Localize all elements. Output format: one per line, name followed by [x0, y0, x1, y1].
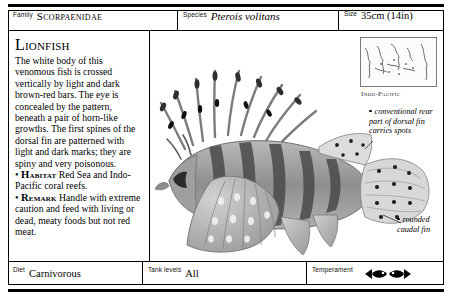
- habitat-line: • Habitat Red Sea and Indo-Pacific coral…: [15, 169, 144, 192]
- description-text: The white body of this venomous fish is …: [15, 55, 144, 169]
- family-label: Family: [13, 11, 33, 18]
- diet-cell: Diet Carnivorous: [8, 262, 143, 285]
- callout-caudal-text: rounded caudal fin: [397, 215, 430, 234]
- illustration-area: Indo-Pacific conventional rear part of d…: [151, 31, 443, 261]
- tank-levels-cell: Tank levels All: [143, 262, 307, 285]
- fish-mouth: [155, 182, 169, 189]
- dorsal-spines: [159, 71, 316, 149]
- family-cell: Family Scorpaenidae: [8, 10, 178, 30]
- page-title: Lionfish: [15, 37, 144, 53]
- body-area: Lionfish The white body of this venomous…: [9, 31, 443, 261]
- callout-dorsal-text: conventional rear part of dorsal fin car…: [369, 107, 433, 135]
- distribution-map: [360, 37, 437, 87]
- remark-keyword: Remark: [21, 192, 57, 203]
- lower-fins: [281, 215, 338, 255]
- temperament-label: Temperament: [312, 266, 353, 273]
- caudal-fin: [361, 159, 430, 224]
- tank-levels-label: Tank levels: [148, 266, 181, 273]
- description-column: Lionfish The white body of this venomous…: [9, 31, 150, 261]
- tank-levels-value: All: [185, 268, 198, 279]
- callout-caudal-fin: rounded caudal fin: [397, 215, 443, 234]
- map-graphic: [361, 38, 436, 86]
- habitat-bullet: •: [15, 169, 19, 180]
- size-cell: Size 35cm (14in): [339, 10, 444, 30]
- top-rule: [8, 4, 444, 7]
- callout-dot-icon: [397, 218, 400, 221]
- callout-dot-icon: [369, 110, 372, 113]
- fish-species-card: Family Scorpaenidae Species Pterois voli…: [0, 0, 452, 299]
- size-value: 35cm (14in): [361, 10, 413, 21]
- map-caption: Indo-Pacific: [361, 90, 400, 97]
- header-row: Family Scorpaenidae Species Pterois voli…: [8, 10, 444, 31]
- remark-bullet: •: [15, 192, 19, 203]
- bottom-rule: [8, 289, 444, 292]
- two-fish-facing-icon: [363, 267, 413, 281]
- species-label: Species: [183, 11, 207, 18]
- species-cell: Species Pterois volitans: [178, 10, 339, 30]
- habitat-keyword: Habitat: [21, 169, 56, 180]
- species-value: Pterois volitans: [211, 10, 280, 22]
- footer-row: Diet Carnivorous Tank levels All Tempera…: [8, 261, 444, 285]
- diet-label: Diet: [13, 266, 25, 273]
- family-value: Scorpaenidae: [37, 10, 102, 22]
- size-label: Size: [344, 10, 357, 17]
- remark-line: • Remark Handle with extreme caution and…: [15, 192, 144, 238]
- callout-dorsal-fin: conventional rear part of dorsal fin car…: [369, 107, 447, 136]
- temperament-cell: Temperament: [307, 262, 443, 285]
- diet-value: Carnivorous: [29, 268, 81, 279]
